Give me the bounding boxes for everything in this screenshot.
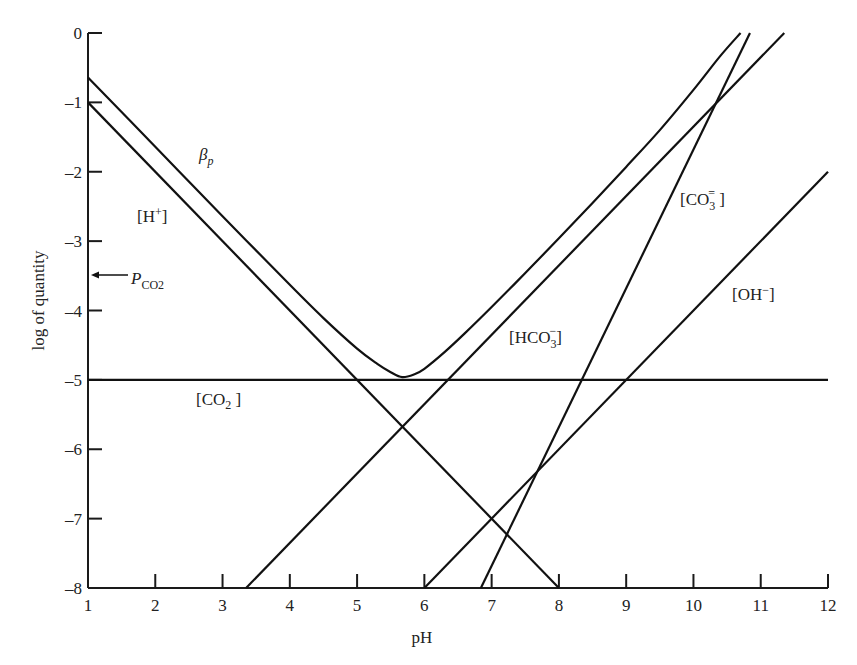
series-group [88,33,828,588]
x-tick-label: 6 [420,596,429,615]
y-tick-label: –6 [64,440,82,459]
hco3-line [246,33,784,588]
y-tick-label: –2 [64,163,82,182]
x-tick-label: 5 [353,596,362,615]
x-tick-label: 1 [84,596,93,615]
x-tick-label: 10 [685,596,702,615]
x-tick-label: 4 [286,596,295,615]
beta-p-curve [88,33,741,377]
label-co3: [CO3= ] [680,186,725,213]
x-tick-label: 9 [622,596,631,615]
label-co2: [CO2 ] [196,390,241,412]
label-beta-p: βp [198,145,213,168]
x-axis-title: pH [412,628,433,647]
y-tick-label: 0 [74,24,83,43]
y-tick-label: –3 [64,232,82,251]
y-axis-title: log of quantity [29,250,48,351]
co3-line [481,33,750,588]
y-tick-label: –1 [64,93,82,112]
x-tick-label: 12 [820,596,837,615]
label-pco2: PCO2 [130,269,164,292]
x-tick-label: 11 [753,596,769,615]
y-tick-label: –7 [64,510,83,529]
chart: 0–1–2–3–4–5–6–7–8123456789101112pHlog of… [0,0,857,665]
h-plus-line [88,102,559,588]
y-tick-label: –5 [64,371,82,390]
axes: 0–1–2–3–4–5–6–7–8123456789101112pHlog of… [29,24,837,647]
x-tick-label: 8 [555,596,564,615]
label-h-plus: [H+] [137,205,167,226]
arrowhead-icon [91,272,99,279]
label-oh: [OH−] [732,283,775,304]
pco2-annotation: PCO2 [91,269,164,292]
x-tick-label: 3 [218,596,227,615]
y-tick-label: –8 [64,579,82,598]
x-tick-label: 7 [487,596,496,615]
x-tick-label: 2 [151,596,160,615]
y-tick-label: –4 [64,302,83,321]
label-hco3: [HCO3−] [509,324,562,351]
